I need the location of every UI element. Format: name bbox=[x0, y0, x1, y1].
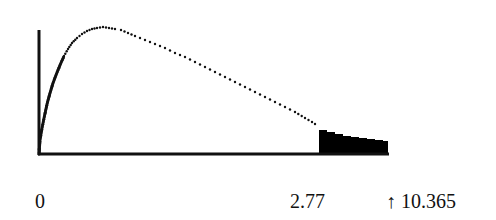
density-curve bbox=[38, 26, 317, 156]
x-tick-critical-value: 2.77 bbox=[290, 191, 325, 211]
x-tick-test-statistic: ↑ 10.365 bbox=[386, 191, 456, 211]
rejection-region bbox=[319, 130, 388, 154]
x-tick-origin: 0 bbox=[35, 191, 45, 211]
distribution-chart bbox=[0, 0, 496, 220]
